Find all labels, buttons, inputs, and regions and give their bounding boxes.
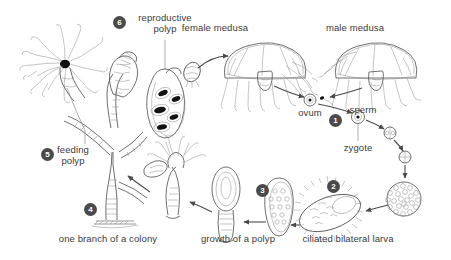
label-male-medusa: male medusa bbox=[326, 22, 384, 33]
label-sperm: sperm bbox=[350, 104, 377, 115]
reproductive-polyp-illustration bbox=[147, 60, 203, 138]
label-zygote: zygote bbox=[344, 142, 373, 153]
arrow-into-colony bbox=[128, 176, 150, 192]
branch-right bbox=[119, 132, 147, 158]
arrow-growing-polyp-to-colony bbox=[190, 202, 212, 212]
arrow-zygote-to-two-cell bbox=[366, 120, 384, 129]
ovum-illustration bbox=[304, 94, 316, 106]
colony-main-stem bbox=[106, 152, 117, 220]
branch-lower-right bbox=[118, 182, 147, 204]
marker-3: 3 bbox=[256, 184, 269, 197]
four-cell-stage-illustration bbox=[399, 151, 411, 163]
diagram-artwork bbox=[0, 0, 451, 260]
arrow-blastula-to-larva bbox=[366, 205, 388, 211]
label-ovum: ovum bbox=[298, 107, 322, 118]
hydrozoan-life-cycle-diagram: reproductive polyp female medusa male me… bbox=[0, 0, 451, 260]
label-female-medusa: female medusa bbox=[182, 22, 248, 33]
arrow-gonophore-to-medusa bbox=[198, 56, 228, 68]
label-feeding-polyp-line2: polyp bbox=[57, 155, 89, 166]
marker-5: 5 bbox=[41, 148, 54, 161]
substrate-stolon bbox=[92, 221, 138, 228]
arrow-two-to-four-cell bbox=[394, 140, 403, 151]
two-cell-stage-illustration bbox=[384, 127, 396, 139]
arrow-male-to-sperm bbox=[330, 88, 362, 97]
feeding-polyp-illustration bbox=[20, 24, 107, 103]
label-growth-of-a-polyp: growth of a polyp bbox=[201, 233, 275, 244]
released-young-medusa bbox=[181, 60, 203, 88]
label-feeding-polyp-line1: feeding bbox=[57, 144, 89, 155]
label-ciliated-bilateral-larva: ciliated bilateral larva bbox=[302, 233, 393, 244]
label-feeding-polyp: feeding polyp bbox=[57, 144, 89, 166]
label-one-branch-of-a-colony: one branch of a colony bbox=[59, 233, 157, 244]
blastula-illustration bbox=[386, 182, 421, 216]
settled-larva-illustration bbox=[265, 178, 294, 236]
marker-2: 2 bbox=[327, 180, 340, 193]
marker-1: 1 bbox=[329, 114, 342, 127]
lateral-bud bbox=[144, 161, 167, 178]
male-medusa-illustration bbox=[319, 43, 421, 112]
marker-4: 4 bbox=[84, 203, 97, 216]
marker-6: 6 bbox=[113, 16, 126, 29]
growing-polyp-illustration bbox=[212, 167, 240, 243]
young-polyp-on-colony bbox=[147, 136, 206, 219]
arrow-to-zygote bbox=[318, 104, 352, 113]
feeding-polyp-bud bbox=[109, 52, 137, 97]
female-medusa-illustration bbox=[221, 43, 318, 112]
